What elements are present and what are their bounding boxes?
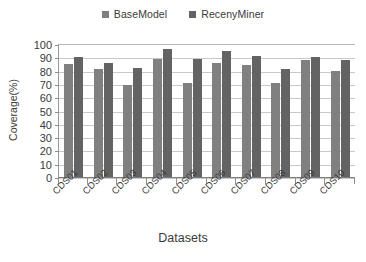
bar-cds06-recenyminer: [222, 51, 231, 177]
bar-cds07-recenyminer: [252, 56, 261, 177]
plot-area: 0102030405060708090100: [58, 44, 355, 177]
bar-group: [148, 45, 178, 177]
bar-cds04-basemodel: [153, 59, 162, 177]
bar-cds01-basemodel: [64, 64, 73, 177]
x-axis-title: Datasets: [0, 231, 366, 245]
bar-group: [59, 45, 89, 177]
bar-cds06-basemodel: [212, 63, 221, 177]
x-axis-category-labels: CDS01CDS02CDS03CDS04CDS05CDS06CDS07CDS08…: [58, 185, 355, 225]
bar-cds02-basemodel: [94, 69, 103, 177]
bar-group: [325, 45, 355, 177]
square-swatch-icon: [102, 11, 109, 18]
legend-label-recenyminer: RecenyMiner: [201, 8, 264, 20]
bar-cds04-recenyminer: [163, 49, 172, 177]
x-axis-category-label: CDS10: [325, 185, 355, 225]
bar-group: [266, 45, 296, 177]
bar-groups: [59, 45, 355, 177]
bar-group: [89, 45, 119, 177]
legend-label-basemodel: BaseModel: [114, 8, 167, 20]
square-swatch-icon: [189, 11, 196, 18]
legend-entry-basemodel: BaseModel: [102, 8, 167, 20]
bar-cds08-recenyminer: [281, 69, 290, 177]
bar-cds07-basemodel: [242, 65, 251, 177]
bar-cds09-basemodel: [301, 60, 310, 177]
bar-group: [118, 45, 148, 177]
bar-cds02-recenyminer: [104, 63, 113, 177]
bar-group: [177, 45, 207, 177]
bar-cds01-recenyminer: [74, 57, 83, 177]
legend-entry-recenyminer: RecenyMiner: [189, 8, 264, 20]
bar-cds10-basemodel: [331, 71, 340, 177]
bar-cds03-recenyminer: [133, 68, 142, 177]
bar-cds05-basemodel: [183, 83, 192, 177]
bar-cds03-basemodel: [123, 85, 132, 177]
bar-cds05-recenyminer: [193, 59, 202, 177]
bar-cds09-recenyminer: [311, 57, 320, 177]
bar-group: [237, 45, 267, 177]
bar-cds08-basemodel: [271, 83, 280, 177]
bar-group: [296, 45, 326, 177]
bar-chart-figure: BaseModel RecenyMiner Coverage(%) 010203…: [0, 0, 366, 262]
y-axis-title: Coverage(%): [2, 50, 24, 170]
y-axis-title-text: Coverage(%): [7, 79, 19, 141]
bar-cds10-recenyminer: [341, 60, 350, 177]
chart-legend: BaseModel RecenyMiner: [0, 8, 366, 20]
bar-group: [207, 45, 237, 177]
